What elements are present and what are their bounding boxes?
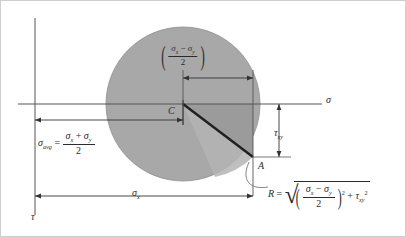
radius-numerator: σx − σy (303, 184, 335, 198)
sigma-avg-subscript: avg (43, 143, 52, 150)
sigma-avg-num-operator: + (76, 130, 82, 141)
label-axis-tau: τ (31, 212, 35, 222)
mohrs-circle-figure: CHAPTER REVIEW (0, 0, 406, 237)
radius-parenthesis: σx − σy 2 (296, 184, 342, 209)
label-center-point: C (168, 106, 175, 116)
label-sigma-avg: σavg = σx + σy 2 (38, 131, 95, 156)
sigma-avg-num-sub-y: y (89, 136, 92, 143)
sigma-deviator-numerator: σx − σy (168, 44, 197, 57)
sigma-deviator-denominator: 2 (168, 57, 197, 67)
label-point-a: A (258, 161, 264, 171)
radius-num-operator: − (316, 183, 322, 194)
sigma-x-subscript: x (137, 193, 140, 200)
radius-radical: √ σx − σy 2 2 + τxy2 (285, 181, 370, 209)
radical-vinculum: σx − σy 2 2 + τxy2 (294, 181, 370, 209)
radius-paren-exponent: 2 (342, 189, 345, 196)
label-sigma-x: σx (132, 188, 140, 200)
radius-denominator: 2 (303, 198, 335, 209)
radius-tau-exponent: 2 (365, 189, 368, 196)
radius-equals: = (277, 188, 283, 199)
radius-num-sub-x: x (311, 189, 314, 196)
radius-fraction: σx − σy 2 (303, 184, 335, 209)
sigma-deviator-parenthesis: σx − σy 2 (161, 44, 204, 67)
radius-num-sub-y: y (329, 189, 332, 196)
sigma-avg-numerator: σx + σy (63, 131, 95, 145)
sigma-dev-num-sub-x: x (176, 49, 178, 55)
radius-symbol: R (268, 188, 274, 199)
sigma-dev-num-operator: − (180, 43, 185, 53)
label-radius-equation: R = √ σx − σy 2 2 + τxy2 (268, 181, 370, 209)
sigma-avg-num-sub-x: x (70, 136, 73, 143)
sigma-deviator-fraction: σx − σy 2 (168, 44, 197, 67)
radius-tau-subscript: xy (359, 196, 365, 203)
label-sigma-deviator: σx − σy 2 (161, 44, 204, 67)
tau-xy-subscript: xy (278, 133, 284, 140)
radius-plus-operator: + (347, 190, 353, 201)
sigma-avg-fraction: σx + σy 2 (63, 131, 95, 156)
label-axis-sigma: σ (326, 95, 331, 105)
sigma-dev-num-sub-y: y (192, 49, 194, 55)
label-tau-xy: τxy (274, 128, 283, 140)
sigma-avg-equals: = (54, 137, 60, 148)
sigma-avg-denominator: 2 (63, 145, 95, 156)
